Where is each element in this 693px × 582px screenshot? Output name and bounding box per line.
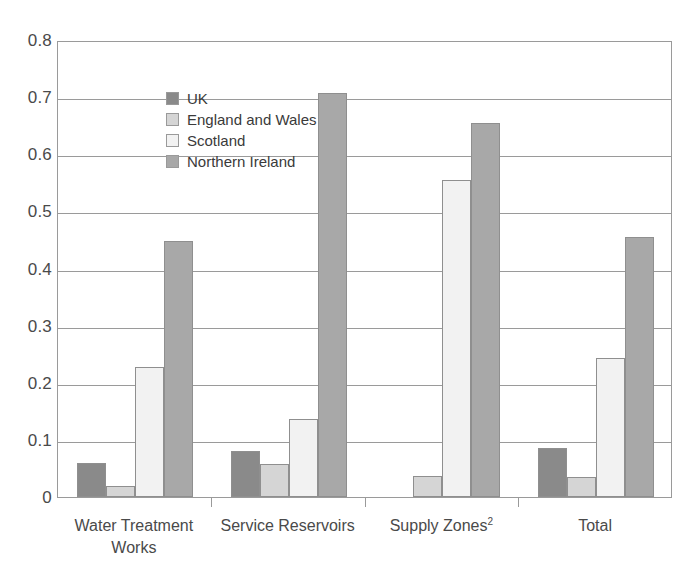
- y-axis-tick-label: 0.5: [4, 203, 52, 220]
- x-axis-label: Total: [518, 515, 672, 537]
- x-axis-tick: [365, 498, 366, 507]
- legend-item-label: Northern Ireland: [187, 154, 295, 169]
- legend-item: UK: [166, 88, 356, 109]
- bar-chart: 0.80.70.60.50.40.30.20.10 UKEngland and …: [0, 0, 693, 582]
- y-axis-tick-label: 0.6: [4, 146, 52, 163]
- bar: [538, 448, 567, 497]
- y-axis-tick-label: 0.3: [4, 318, 52, 335]
- y-axis-tick-label: 0.7: [4, 89, 52, 106]
- bar: [231, 451, 260, 497]
- footnote-marker: 2: [488, 516, 494, 527]
- y-axis-tick-label: 0.2: [4, 375, 52, 392]
- x-axis-label: Service Reservoirs: [211, 515, 365, 537]
- bar: [471, 123, 500, 497]
- legend-item-label: Scotland: [187, 133, 245, 148]
- legend-item: Scotland: [166, 130, 356, 151]
- bar: [135, 367, 164, 497]
- y-axis-tick-label: 0: [4, 489, 52, 506]
- y-axis-tick-label: 0.1: [4, 432, 52, 449]
- legend-item: Northern Ireland: [166, 151, 356, 172]
- y-axis: 0.80.70.60.50.40.30.20.10: [0, 0, 52, 582]
- legend-swatch-scotland: [166, 134, 179, 147]
- legend-swatch-northern-ireland: [166, 155, 179, 168]
- x-axis-tick: [211, 498, 212, 507]
- legend-item-label: England and Wales: [187, 112, 317, 127]
- legend-item-label: UK: [187, 91, 208, 106]
- bar: [442, 180, 471, 497]
- x-axis-ticks: [57, 498, 672, 507]
- bars-layer: [58, 42, 671, 497]
- chart-legend: UKEngland and WalesScotlandNorthern Irel…: [166, 88, 356, 172]
- legend-swatch-uk: [166, 92, 179, 105]
- bar: [596, 358, 625, 497]
- bar: [625, 237, 654, 497]
- bar: [260, 464, 289, 497]
- x-axis-labels: Water Treatment WorksService ReservoirsS…: [57, 515, 672, 575]
- x-axis-label: Water Treatment Works: [57, 515, 211, 559]
- bar: [164, 241, 193, 497]
- bar: [567, 477, 596, 497]
- bar: [413, 476, 442, 497]
- x-axis-tick: [518, 498, 519, 507]
- bar: [289, 419, 318, 497]
- legend-item: England and Wales: [166, 109, 356, 130]
- y-axis-tick-label: 0.8: [4, 32, 52, 49]
- y-axis-tick-label: 0.4: [4, 261, 52, 278]
- bar: [77, 463, 106, 497]
- x-axis-label: Supply Zones2: [365, 515, 519, 537]
- legend-swatch-england-and-wales: [166, 113, 179, 126]
- bar: [106, 486, 135, 497]
- plot-area: UKEngland and WalesScotlandNorthern Irel…: [57, 41, 672, 498]
